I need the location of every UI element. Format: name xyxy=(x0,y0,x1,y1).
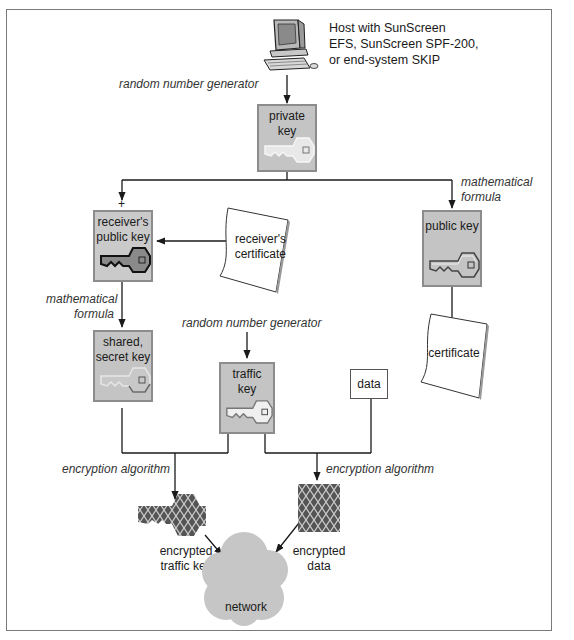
key-icon xyxy=(263,134,315,164)
key-icon xyxy=(225,396,273,426)
math-formula-left-label: mathematical formula xyxy=(46,292,114,322)
receivers-certificate: receiver's certificate xyxy=(214,200,294,296)
math-formula-right-label: mathematical formula xyxy=(461,175,532,205)
certificate: certificate xyxy=(415,306,495,402)
rng-top-label: random number generator xyxy=(119,77,258,91)
receivers-public-key-box: receiver's public key xyxy=(93,210,153,282)
key-icon xyxy=(99,244,151,274)
encrypted-data-icon xyxy=(298,484,340,532)
key-icon xyxy=(428,249,480,279)
traffic-key-box: traffic key xyxy=(219,362,275,434)
public-key-box: public key xyxy=(422,210,482,287)
host-computer xyxy=(262,18,320,74)
network-label: network xyxy=(214,600,278,614)
data-box: data xyxy=(350,369,388,399)
shared-secret-key-box: shared, secret key xyxy=(93,330,153,402)
encryption-right-label: encryption algorithm xyxy=(326,462,434,476)
computer-icon xyxy=(262,18,320,74)
plus-sign: + xyxy=(118,197,125,211)
host-label: Host with SunScreen EFS, SunScreen SPF-2… xyxy=(329,20,478,68)
key-icon xyxy=(99,364,151,394)
rng-middle-label: random number generator xyxy=(182,316,321,330)
encryption-left-label: encryption algorithm xyxy=(62,462,170,476)
private-key-box: private key xyxy=(257,104,317,172)
